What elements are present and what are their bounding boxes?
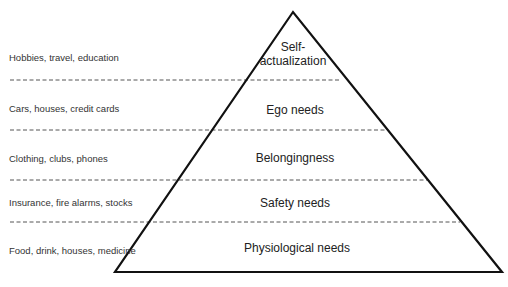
example-ego-needs: Cars, houses, credit cards bbox=[9, 103, 119, 114]
tier-label-belongingness: Belongingness bbox=[256, 151, 335, 165]
tier-label-safety-needs: Safety needs bbox=[260, 196, 330, 210]
tier-label-line-2: actualization bbox=[260, 54, 327, 68]
example-self-actualization: Hobbies, travel, education bbox=[9, 52, 119, 63]
tier-label-self-actualization: Self- actualization bbox=[260, 40, 327, 68]
tier-label-physiological-needs: Physiological needs bbox=[244, 241, 350, 255]
example-physiological-needs: Food, drink, houses, medicine bbox=[9, 245, 136, 256]
tier-label-ego-needs: Ego needs bbox=[266, 103, 323, 117]
tier-label-line-1: Self- bbox=[260, 40, 327, 54]
example-belongingness: Clothing, clubs, phones bbox=[9, 153, 108, 164]
example-safety-needs: Insurance, fire alarms, stocks bbox=[9, 197, 133, 208]
